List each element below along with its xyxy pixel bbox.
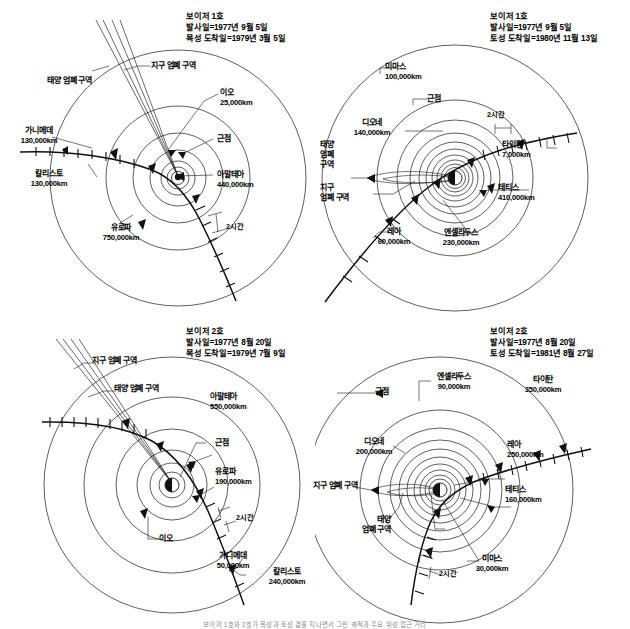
label-sun-occultation: 태양 엄폐 구역	[323, 515, 391, 535]
trajectory-hour-ticks	[36, 147, 235, 287]
mission-name: 보이저 1호	[186, 11, 285, 22]
label-europa: 유로파 750,000km	[88, 223, 154, 243]
trajectory-voyager1-saturn	[325, 133, 577, 302]
mission-name: 보이저 2호	[186, 326, 285, 337]
panel-voyager2-jupiter: 보이저 2호 발사일=1977년 8월 20일 목성 도착일=1979년 7월 …	[0, 315, 315, 629]
label-europa: 유로파 190,000km	[215, 467, 252, 487]
label-ganymede: 가니메데 130,000km	[4, 126, 74, 146]
figure-caption: 보이저 1호와 2호가 목성과 토성 곁을 지나면서 그린 궤적과 주요 위성 …	[0, 620, 630, 629]
label-two-hour-scale: 2시간	[226, 222, 243, 232]
arrival-date: 목성 도착일=1979년 7월 9일	[186, 348, 285, 359]
voyager1-jupiter-diagram	[0, 0, 315, 314]
label-rhea: 레아 60,000km	[367, 227, 421, 247]
mission-name: 보이저 2호	[490, 326, 594, 337]
label-io: 이오	[159, 534, 173, 544]
label-sun-occultation: 태양 엄폐 구역	[320, 140, 334, 171]
label-perijove: 근점	[215, 438, 229, 448]
label-titan: 타이탄 350,000km	[503, 375, 583, 395]
panel-header: 보이저 2호 발사일=1977년 8월 20일 목성 도착일=1979년 7월 …	[186, 326, 285, 360]
voyager1-saturn-diagram	[315, 0, 630, 314]
label-titan: 타이탄 7,000km	[502, 140, 531, 160]
arrival-date: 목성 도착일=1979년 3월 5일	[186, 33, 285, 44]
label-callisto: 칼리스토 240,000km	[259, 567, 315, 587]
label-sun-occultation: 태양 엄폐 구역	[114, 384, 159, 394]
launch-date: 발사일=1977년 8월 20일	[186, 337, 285, 348]
label-perikrone: 근점	[427, 94, 441, 104]
label-mimas: 미마스 30,000km	[461, 554, 523, 574]
voyager2-saturn-diagram	[315, 315, 630, 629]
launch-date: 발사일=1977년 8월 20일	[490, 337, 594, 348]
label-two-hour-scale: 2시간	[487, 110, 504, 120]
label-earth-occultation: 지구 엄폐 구역	[320, 183, 349, 203]
panel-header: 보이저 1호 발사일=1977년 9월 5일 목성 도착일=1979년 3월 5…	[186, 11, 285, 45]
label-two-hour-scale: 2시간	[439, 569, 456, 579]
label-earth-occultation: 지구 엄폐 구역	[92, 356, 137, 366]
panel-header: 보이저 2호 발사일=1977년 8월 20일 토성 도착일=1981년 8월 …	[490, 326, 594, 360]
label-io: 이오 25,000km	[220, 88, 253, 108]
label-dione: 디오네 200,000km	[337, 437, 411, 457]
label-amalthea: 아말테아 550,000km	[210, 392, 247, 412]
label-perijove: 근점	[217, 134, 231, 144]
label-two-hour-scale: 2시간	[236, 513, 253, 523]
arrival-date: 토성 도착일=1980년 11월 13일	[490, 33, 598, 44]
label-earth-occultation: 지구 엄폐 구역	[313, 481, 358, 491]
arrival-date: 토성 도착일=1981년 8월 27일	[490, 348, 594, 359]
figure-sheet: 보이저 1호 발사일=1977년 9월 5일 목성 도착일=1979년 3월 5…	[0, 0, 630, 629]
label-callisto: 칼리스토 130,000km	[14, 169, 84, 189]
label-rhea: 레아 250,000km	[507, 440, 544, 460]
label-enceladus: 엔셀라두스 230,000km	[421, 228, 501, 248]
label-tethys: 테티스 160,000km	[505, 485, 542, 505]
label-perikrone: 근점	[375, 387, 389, 397]
label-mimas: 미마스 100,000km	[385, 62, 422, 82]
panel-header: 보이저 1호 발사일=1977년 9월 5일 토성 도착일=1980년 11월 …	[490, 11, 598, 45]
label-enceladus: 엔셀라두스 90,000km	[413, 372, 495, 392]
launch-date: 발사일=1977년 9월 5일	[186, 22, 285, 33]
label-tethys: 테티스 410,000km	[498, 183, 535, 203]
panel-voyager1-jupiter: 보이저 1호 발사일=1977년 9월 5일 목성 도착일=1979년 3월 5…	[0, 0, 315, 314]
label-dione: 디오네 140,000km	[337, 118, 407, 138]
launch-date: 발사일=1977년 9월 5일	[490, 22, 598, 33]
label-earth-occultation: 지구 엄폐 구역	[151, 61, 196, 71]
panel-voyager2-saturn: 보이저 2호 발사일=1977년 8월 20일 토성 도착일=1981년 8월 …	[315, 315, 630, 629]
occultation-corridor-lines	[96, 20, 178, 176]
planet-jupiter	[165, 478, 179, 492]
leader-arrowheads	[168, 150, 186, 181]
panel-voyager1-saturn: 보이저 1호 발사일=1977년 9월 5일 토성 도착일=1980년 11월 …	[315, 0, 630, 314]
mission-name: 보이저 1호	[490, 11, 598, 22]
label-amalthea: 아말테아 440,000km	[217, 170, 254, 190]
label-sun-occultation: 태양 엄폐 구역	[8, 76, 92, 86]
